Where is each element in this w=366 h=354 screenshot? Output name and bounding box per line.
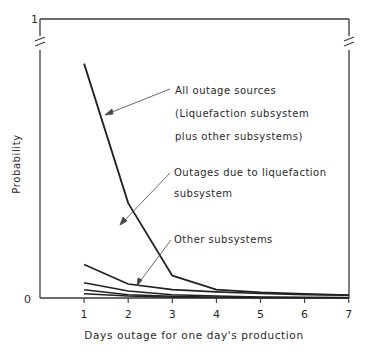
annotation-line: All outage sources bbox=[175, 85, 276, 96]
x-tick-label: 5 bbox=[257, 308, 264, 321]
x-tick-label: 4 bbox=[213, 308, 220, 321]
axis-break-marks bbox=[35, 37, 354, 46]
series-line-0 bbox=[84, 64, 349, 296]
arrowhead-icon bbox=[120, 217, 127, 225]
x-tick-label: 6 bbox=[301, 308, 308, 321]
y-tick-label-0: 0 bbox=[24, 293, 31, 306]
annotation-liquefaction: Outages due to liquefaction subsystem bbox=[174, 167, 327, 199]
x-axis-tick-labels: 1234567 bbox=[81, 308, 353, 321]
annotation-all-sources: All outage sources (Liquefaction subsyst… bbox=[175, 85, 309, 142]
annotation-line: subsystem bbox=[174, 188, 233, 199]
x-axis-ticks bbox=[84, 298, 349, 303]
annotation-line: plus other subsystems) bbox=[175, 131, 303, 142]
arrowhead-icon bbox=[105, 109, 113, 115]
y-axis-label: Probability bbox=[11, 134, 22, 193]
y-tick-label-1: 1 bbox=[31, 13, 38, 26]
annotation-line: Other subsystems bbox=[174, 234, 273, 245]
probability-line-chart: 1234567 0 1 Days outage for one day's pr… bbox=[0, 0, 366, 354]
x-tick-label: 7 bbox=[345, 308, 352, 321]
x-tick-label: 2 bbox=[125, 308, 132, 321]
data-series bbox=[84, 64, 349, 298]
x-tick-label: 1 bbox=[81, 308, 88, 321]
annotation-other: Other subsystems bbox=[174, 234, 273, 245]
x-axis-label: Days outage for one day's production bbox=[84, 329, 303, 341]
plot-frame bbox=[40, 19, 349, 298]
annotation-line: (Liquefaction subsystem bbox=[175, 108, 309, 119]
x-tick-label: 3 bbox=[169, 308, 176, 321]
annotation-line: Outages due to liquefaction bbox=[174, 167, 327, 178]
